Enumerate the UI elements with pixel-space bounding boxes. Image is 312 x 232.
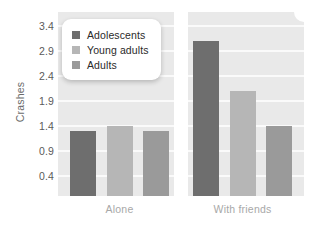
legend-label: Adults <box>87 59 117 71</box>
y-tick-label: 0.4 <box>28 171 54 181</box>
x-tick-label: With friends <box>181 203 304 215</box>
bar <box>107 126 133 196</box>
y-tick-label: 3.4 <box>28 21 54 31</box>
legend-item: Adults <box>72 57 149 72</box>
y-tick-label: 2.9 <box>28 46 54 56</box>
legend-swatch-icon <box>72 46 80 54</box>
y-tick-label: 2.4 <box>28 71 54 81</box>
legend-swatch-icon <box>72 61 80 69</box>
y-tick-label: 1.9 <box>28 96 54 106</box>
legend-item: Young adults <box>72 42 149 57</box>
y-axis-label: Crashes <box>14 62 26 142</box>
band-separator <box>174 12 188 196</box>
chart-legend: AdolescentsYoung adultsAdults <box>62 19 161 80</box>
bar <box>193 41 219 196</box>
bar <box>143 131 169 196</box>
y-tick-label: 1.4 <box>28 121 54 131</box>
bar-chart-figure: Crashes 0.40.91.41.92.42.93.4 AloneWith … <box>0 0 312 232</box>
bar <box>266 126 292 196</box>
x-tick-label: Alone <box>58 203 181 215</box>
bar <box>230 91 256 196</box>
legend-swatch-icon <box>72 31 80 39</box>
y-axis-tick-labels: 0.40.91.41.92.42.93.4 <box>26 0 54 232</box>
y-tick-label: 0.9 <box>28 146 54 156</box>
legend-label: Adolescents <box>87 29 145 41</box>
legend-item: Adolescents <box>72 27 149 42</box>
bar <box>70 131 96 196</box>
legend-label: Young adults <box>87 44 149 56</box>
